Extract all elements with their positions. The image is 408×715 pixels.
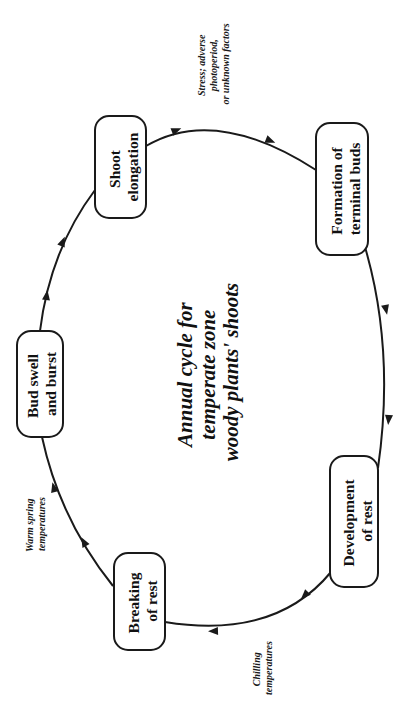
condition-label-line: photoperiod, [208,39,219,92]
stage-label-line: Breaking [125,572,142,633]
svg-text:Formation of terminal bu: Formation of terminal buds [328,143,363,236]
condition-label-line: temperatures [263,641,274,695]
arrowhead-icon [208,627,218,635]
stage-label-line: of rest [143,579,160,621]
svg-text:Warm spring temperatures: Warm spring temperatures [24,496,47,552]
stage-label-line: of rest [358,499,375,541]
diagram-title: Annual cycle for temperate zone woody pl… [173,283,243,462]
arc-development-to-breaking [165,572,331,626]
stage-breaking-of-rest: Breaking of rest [114,553,165,650]
stage-bud-swell-burst: Bud swell and burst [17,331,63,437]
annual-cycle-diagram: Shoot elongation Formation of terminal b… [0,0,408,715]
stage-label-line: Bud swell [24,353,41,418]
arrowhead-icon [381,304,391,315]
svg-text:Bud swell and burst: Bud swell and burst [24,350,59,418]
arc-budswell-to-shoot [40,190,95,331]
condition-label-line: or unknown factors [220,23,231,104]
condition-label-line: Chilling [251,652,262,686]
condition-label-line: temperatures [36,497,47,551]
stage-label-line: Development [340,479,357,567]
arc-formation-to-development [365,247,384,468]
stage-label-line: Shoot [106,149,123,188]
title-line: temperate zone [196,310,220,440]
stage-formation-terminal-buds: Formation of terminal buds [316,123,368,255]
arrowhead-icon [384,415,393,426]
condition-label-line: Warm spring [24,499,35,552]
title-line: Annual cycle for [173,301,197,448]
stage-label-line: elongation [124,132,141,201]
title-line: woody plants' shoots [219,283,243,462]
condition-warm-spring: Warm spring temperatures [24,496,47,552]
stage-shoot-elongation: Shoot elongation [95,116,146,218]
condition-label-line: Stress; adverse [196,34,207,96]
stage-label-line: terminal buds [346,143,363,236]
svg-text:Annual cycle for tempera: Annual cycle for temperate zone woody pl… [173,283,243,462]
condition-stress: Stress; adverse photoperiod, or unknown … [196,23,231,104]
arc-shoot-to-formation [146,130,316,170]
stage-label-line: and burst [42,351,59,416]
arc-breaking-to-budswell [42,437,113,586]
svg-text:Stress; adverse photoper: Stress; adverse photoperiod, or unknown … [196,23,231,104]
condition-chilling: Chilling temperatures [251,641,274,695]
stage-label-line: Formation of [328,146,345,234]
svg-text:Chilling temperatures: Chilling temperatures [251,641,274,695]
stage-development-of-rest: Development of rest [330,456,378,587]
